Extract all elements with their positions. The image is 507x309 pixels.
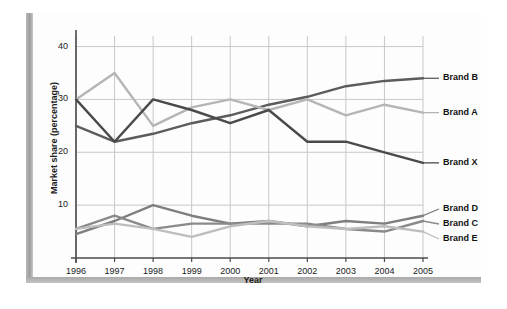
x-tick-label: 2000 — [213, 266, 247, 276]
series-label-brand-b: Brand B — [443, 72, 478, 82]
y-tick-label: 20 — [44, 146, 68, 156]
series-label-brand-c: Brand C — [443, 218, 478, 228]
x-tick-label: 2003 — [329, 266, 363, 276]
series-label-brand-d: Brand D — [443, 203, 478, 213]
x-tick-label: 2005 — [406, 266, 440, 276]
decorative-frame-left — [26, 13, 33, 283]
series-lines — [76, 73, 423, 237]
x-tick-label: 2004 — [367, 266, 401, 276]
y-tick-label: 10 — [44, 199, 68, 209]
series-label-brand-x: Brand X — [443, 157, 478, 167]
x-tick-label: 1998 — [136, 266, 170, 276]
y-tick-label: 40 — [44, 41, 68, 51]
legend-leader-lines — [423, 78, 439, 239]
x-tick-label: 1996 — [59, 266, 93, 276]
x-tick-label: 1999 — [175, 266, 209, 276]
series-label-brand-a: Brand A — [443, 107, 478, 117]
x-axis-title: Year — [208, 275, 298, 285]
x-tick-label: 2001 — [252, 266, 286, 276]
series-label-brand-e: Brand E — [443, 233, 478, 243]
chart-panel: Market share (percentage) Year 40302010 … — [33, 13, 481, 277]
y-tick-label: 30 — [44, 93, 68, 103]
x-tick-label: 1997 — [98, 266, 132, 276]
x-tick-label: 2002 — [290, 266, 324, 276]
chart-figure: Market share (percentage) Year 40302010 … — [0, 0, 507, 309]
line-chart-plot — [33, 13, 481, 277]
